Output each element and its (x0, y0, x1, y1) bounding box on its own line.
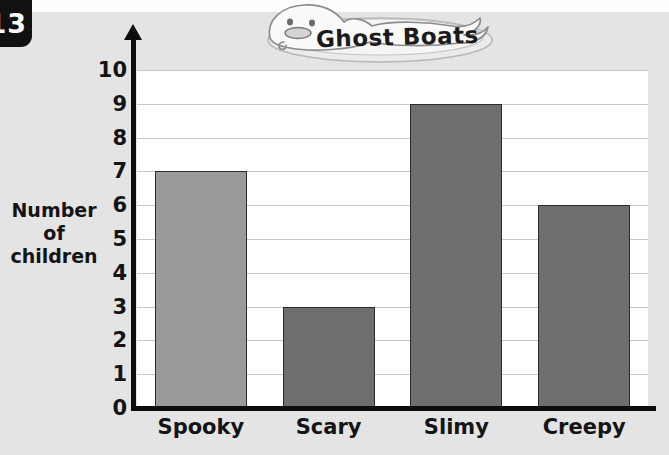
y-axis-title-line: of (2, 222, 106, 245)
bar-slimy (410, 104, 502, 408)
y-axis-tick-label: 10 (87, 58, 127, 82)
y-axis-title: Numberofchildren (2, 199, 106, 268)
y-axis-tick-label: 8 (87, 126, 127, 150)
chart-title: Ghost Boats (316, 22, 479, 52)
y-axis-tick-label: 9 (87, 92, 127, 116)
x-axis-tick-label: Spooky (137, 415, 265, 439)
page-number-badge: 13 (0, 0, 32, 47)
y-axis-tick-label: 0 (87, 396, 127, 420)
x-axis-line (131, 406, 656, 411)
gridline (137, 104, 648, 105)
plot-area (137, 70, 648, 408)
y-axis-tick-label: 1 (87, 362, 127, 386)
y-axis-tick-label: 2 (87, 328, 127, 352)
bar-scary (283, 307, 375, 408)
y-axis-tick-label: 7 (87, 159, 127, 183)
x-axis-tick-label: Scary (265, 415, 393, 439)
gridline (137, 138, 648, 139)
y-axis-title-line: children (2, 245, 106, 268)
bar-creepy (538, 205, 630, 408)
bar-spooky (155, 171, 247, 408)
y-axis-line (131, 36, 136, 410)
gridline (137, 70, 648, 71)
y-axis-tick-label: 3 (87, 295, 127, 319)
y-axis-title-line: Number (2, 199, 106, 222)
x-axis-tick-label: Slimy (393, 415, 521, 439)
x-axis-tick-label: Creepy (520, 415, 648, 439)
